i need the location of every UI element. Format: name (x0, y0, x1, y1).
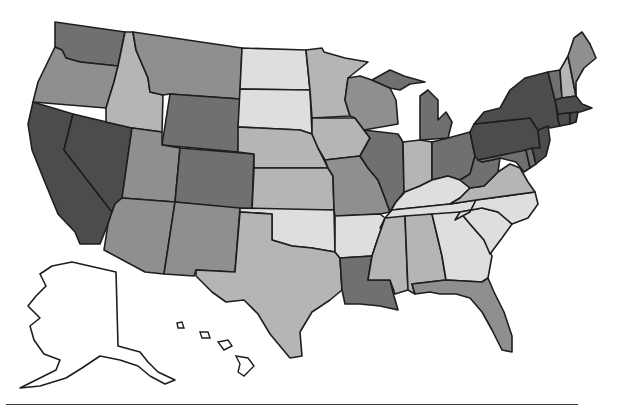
state-rhode-island (570, 112, 578, 124)
state-connecticut (558, 113, 570, 126)
state-kansas (252, 168, 334, 210)
state-alaska (20, 262, 175, 388)
state-florida (412, 278, 512, 352)
hawaii-island-oahu (200, 332, 210, 338)
state-north-dakota (240, 48, 310, 90)
state-massachusetts (555, 96, 592, 114)
state-hawaii (236, 356, 254, 376)
state-colorado (175, 148, 254, 210)
hawaii-island-kauai (177, 322, 184, 328)
state-montana (133, 32, 242, 99)
hawaii-island-maui (218, 340, 232, 350)
state-wyoming (162, 94, 240, 152)
bottom-rule-divider (6, 404, 578, 405)
state-new-mexico (164, 202, 240, 276)
us-choropleth-map (0, 0, 630, 417)
state-arizona (104, 198, 175, 274)
